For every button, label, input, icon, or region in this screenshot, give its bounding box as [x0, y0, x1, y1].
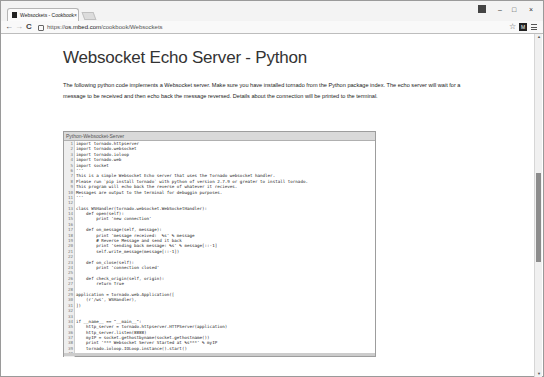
menu-icon[interactable] [531, 24, 537, 30]
browser-tab[interactable]: Websockets - Cookbook × [7, 8, 79, 21]
bookmark-star-icon[interactable]: ☆ [509, 22, 516, 32]
line-code: print 'connection closed' [75, 265, 159, 270]
extension-icon[interactable]: M [519, 23, 527, 31]
reload-button[interactable]: C [26, 22, 32, 32]
code-block-title: Python-Websocket-Server [64, 132, 375, 141]
browser-window: Websockets - Cookbook × – □ × ← → C http… [0, 0, 544, 377]
url-text: https://os.mbed.com/cookbook/Websockets [47, 24, 163, 30]
title-bar: Websockets - Cookbook × – □ × [1, 1, 543, 21]
page-scrollbar[interactable]: ▲ ▼ [534, 34, 542, 377]
line-code: return True [75, 281, 124, 286]
page-viewport: Websocket Echo Server - Python The follo… [1, 34, 534, 377]
line-code: tornado.ioloop.IOLoop.instance().start() [75, 346, 187, 351]
line-code: ''' [75, 195, 84, 200]
line-code: self.write_message(message[::-1]) [75, 249, 179, 254]
minimize-button[interactable]: – [498, 6, 502, 13]
close-window-button[interactable]: × [529, 6, 533, 13]
tab-close-icon[interactable]: × [74, 12, 77, 18]
user-profile-icon[interactable] [478, 5, 486, 13]
code-block: Python-Websocket-Server 1import tornado.… [63, 131, 376, 357]
address-bar[interactable]: https://os.mbed.com/cookbook/Websockets [38, 22, 508, 32]
lock-icon [38, 25, 44, 31]
back-button[interactable]: ← [5, 22, 13, 32]
scrollbar-thumb[interactable] [536, 173, 541, 262]
code-lines: 1import tornado.httpserver2import tornad… [64, 141, 375, 352]
tab-title: Websockets - Cookbook [20, 12, 74, 18]
line-code: print 'new connection' [75, 216, 152, 221]
line-code: (r'/ws', WSHandler), [75, 297, 137, 302]
new-tab-button[interactable] [82, 12, 97, 20]
page-title: Websocket Echo Server - Python [63, 48, 307, 68]
favicon-icon [12, 12, 17, 18]
scroll-up-arrow-icon[interactable]: ▲ [535, 34, 543, 40]
url-scheme: https:// [47, 24, 65, 30]
forward-button[interactable]: → [15, 22, 23, 32]
line-code: Messages are output to the terminal for … [75, 190, 222, 195]
intro-paragraph: The following python code implements a W… [63, 80, 483, 102]
browser-toolbar: ← → C https://os.mbed.com/cookbook/Webso… [1, 21, 543, 34]
code-horizontal-scrollbar[interactable] [64, 353, 375, 356]
url-host: os.mbed.com [65, 24, 101, 30]
url-path: /cookbook/Websockets [101, 24, 163, 30]
maximize-button[interactable]: □ [512, 6, 516, 13]
scroll-down-arrow-icon[interactable]: ▼ [535, 371, 543, 377]
